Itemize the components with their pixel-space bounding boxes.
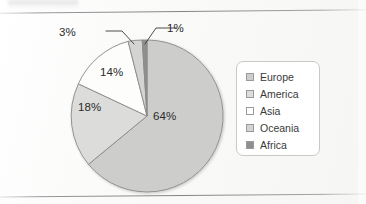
legend-item-europe[interactable]: Europe bbox=[246, 69, 319, 86]
slice-label-oceania: 3% bbox=[59, 26, 76, 38]
legend-label-asia: Asia bbox=[260, 106, 280, 117]
legend-item-asia[interactable]: Asia bbox=[246, 103, 319, 120]
legend-swatch-africa bbox=[246, 141, 254, 149]
slice-label-europe: 64% bbox=[153, 110, 176, 122]
legend-item-america[interactable]: America bbox=[246, 86, 319, 103]
legend-label-europe: Europe bbox=[260, 72, 294, 83]
legend-label-oceania: Oceania bbox=[260, 123, 299, 134]
legend-swatch-europe bbox=[246, 73, 254, 81]
legend-label-africa: Africa bbox=[260, 140, 287, 151]
slice-label-asia: 14% bbox=[100, 66, 123, 78]
legend-swatch-america bbox=[246, 90, 254, 98]
slice-label-africa: 1% bbox=[167, 22, 184, 34]
legend-item-oceania[interactable]: Oceania bbox=[246, 120, 319, 137]
chart-legend: Europe America Asia Oceania Africa bbox=[236, 61, 320, 156]
legend-swatch-asia bbox=[246, 107, 254, 115]
legend-label-america: America bbox=[260, 89, 299, 100]
legend-item-africa[interactable]: Africa bbox=[246, 137, 319, 154]
pie-slices bbox=[71, 40, 223, 192]
slice-label-america: 18% bbox=[78, 101, 101, 113]
legend-swatch-oceania bbox=[246, 124, 254, 132]
